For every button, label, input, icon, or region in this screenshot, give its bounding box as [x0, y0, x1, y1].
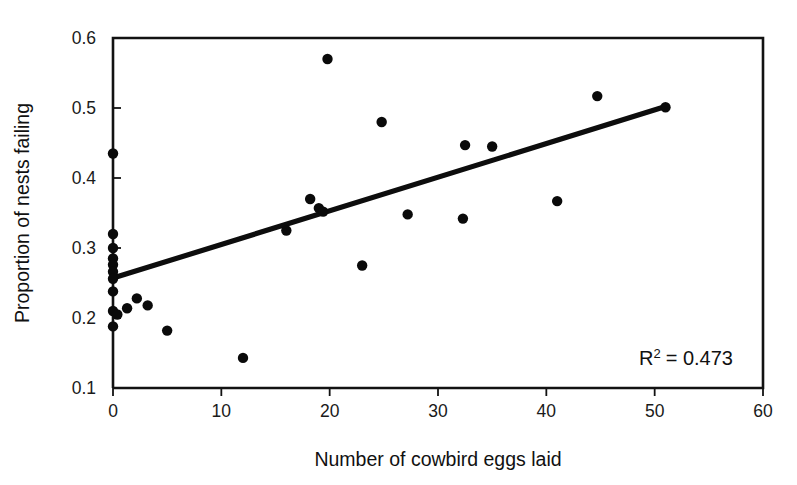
data-point [108, 229, 118, 239]
r-squared-superscript: 2 [653, 346, 660, 361]
data-point [552, 196, 562, 206]
data-point [108, 321, 118, 331]
data-point [458, 213, 468, 223]
data-point [132, 293, 142, 303]
data-point [318, 206, 328, 216]
data-point [238, 353, 248, 363]
data-point [660, 102, 670, 112]
r-squared-value: = 0.473 [666, 347, 733, 369]
data-point [357, 260, 367, 270]
data-point [162, 325, 172, 335]
data-point [142, 300, 152, 310]
figure-background [0, 0, 797, 485]
data-point [108, 243, 118, 253]
data-point [460, 140, 470, 150]
y-tick-label-0.5: 0.5 [72, 98, 96, 118]
y-tick-label-0.2: 0.2 [72, 308, 96, 328]
y-tick-label-0.1: 0.1 [72, 378, 96, 398]
x-tick-label-40: 40 [537, 401, 557, 421]
y-tick-label-0.4: 0.4 [72, 168, 97, 188]
plot-canvas: 0.10.20.30.40.50.6 0102030405060 Number … [0, 0, 797, 485]
scatter-plot-figure: 0.10.20.30.40.50.6 0102030405060 Number … [0, 0, 797, 485]
y-tick-label-0.6: 0.6 [72, 28, 96, 48]
data-point [281, 225, 291, 235]
data-point [122, 303, 132, 313]
data-point [376, 117, 386, 127]
data-point [322, 54, 332, 64]
data-point [108, 274, 118, 284]
x-tick-label-50: 50 [645, 401, 665, 421]
r-squared-symbol: R [639, 347, 653, 369]
x-tick-label-20: 20 [320, 401, 340, 421]
data-point [402, 209, 412, 219]
data-point [592, 91, 602, 101]
data-point [112, 309, 122, 319]
x-tick-label-0: 0 [108, 401, 118, 421]
x-tick-label-30: 30 [428, 401, 448, 421]
r-squared-annotation: R2= 0.473 [639, 346, 733, 369]
y-axis-title: Proportion of nests failing [11, 103, 33, 323]
data-point [305, 194, 315, 204]
x-tick-label-10: 10 [212, 401, 232, 421]
data-point [487, 141, 497, 151]
x-axis-title: Number of cowbird eggs laid [314, 448, 561, 470]
y-tick-label-0.3: 0.3 [72, 238, 96, 258]
data-point [108, 148, 118, 158]
data-point [108, 286, 118, 296]
x-tick-label-60: 60 [753, 401, 773, 421]
